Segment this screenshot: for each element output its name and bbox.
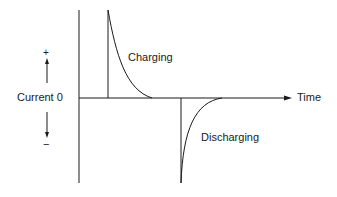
time-axis-arrowhead-icon [284,96,292,101]
charging-label: Charging [128,52,173,63]
time-axis-label: Time [297,92,321,103]
positive-sign: + [43,48,49,58]
current-axis-label: Current 0 [17,92,63,103]
negative-sign: − [43,139,49,150]
negative-direction-arrow-icon [45,112,49,138]
discharging-label: Discharging [201,132,259,143]
positive-direction-arrow-icon [45,58,49,83]
